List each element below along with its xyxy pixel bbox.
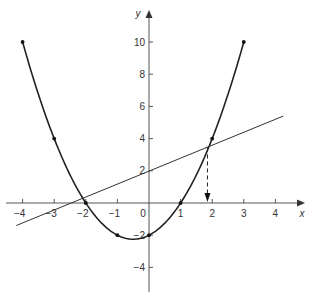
x-tick-label: 1 (178, 208, 184, 219)
y-tick-label: 10 (134, 37, 146, 48)
y-tick-label: −4 (134, 262, 146, 273)
y-tick-label: 4 (139, 133, 145, 144)
data-point (52, 137, 56, 141)
y-tick-label: 8 (139, 69, 145, 80)
x-tick-label: −1 (109, 208, 121, 219)
chart: xy −4−3−2−11234−4−22468100 (0, 0, 313, 308)
x-tick-label: −4 (14, 208, 26, 219)
origin-label: 0 (140, 208, 146, 219)
x-tick-label: 4 (273, 208, 279, 219)
y-axis-arrow-icon (146, 10, 153, 18)
x-tick-label: 2 (209, 208, 215, 219)
data-point (116, 233, 120, 237)
data-point (21, 40, 25, 44)
y-axis-label: y (135, 8, 142, 19)
data-point (84, 201, 88, 205)
data-point (242, 40, 246, 44)
x-tick-label: −2 (77, 208, 89, 219)
x-axis-arrow-icon (297, 200, 305, 207)
axes: xy (6, 8, 306, 292)
data-point (210, 137, 214, 141)
x-tick-label: 3 (241, 208, 247, 219)
down-arrow-icon (204, 193, 210, 202)
data-point (147, 233, 151, 237)
data-point (179, 201, 183, 205)
y-tick-label: 6 (139, 101, 145, 112)
ticks: −4−3−2−11234−4−22468100 (14, 37, 279, 273)
x-axis-label: x (299, 208, 306, 219)
